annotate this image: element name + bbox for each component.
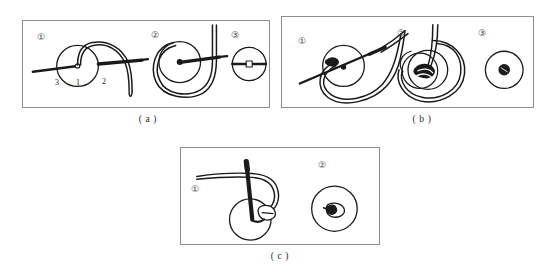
panel-b-illustration [282, 17, 533, 107]
panel-c: ① ② [180, 147, 380, 245]
thread-label-1: 1 [76, 79, 80, 87]
caption-c: ( c ) [262, 251, 298, 261]
step-mark-b-3: ③ [478, 29, 486, 38]
caption-a: ( a ) [130, 114, 166, 124]
panel-a: ① ② ③ 3 1 2 [22, 20, 270, 108]
step-mark-a-3: ③ [231, 31, 239, 40]
step-mark-a-1: ① [37, 33, 45, 42]
step-mark-c-2: ② [318, 161, 326, 170]
panel-c-illustration [181, 148, 379, 244]
caption-b: ( b ) [404, 114, 440, 124]
step-mark-c-1: ① [191, 185, 199, 194]
figure-root: ① ② ③ 3 1 2 ( a ) [0, 0, 557, 276]
thread-label-2: 2 [102, 78, 106, 86]
step-mark-b-2: ② [397, 29, 405, 38]
step-mark-a-2: ② [151, 31, 159, 40]
thread-label-3: 3 [55, 79, 59, 87]
panel-b: ① ② ③ [281, 16, 534, 108]
step-mark-b-1: ① [298, 37, 306, 46]
